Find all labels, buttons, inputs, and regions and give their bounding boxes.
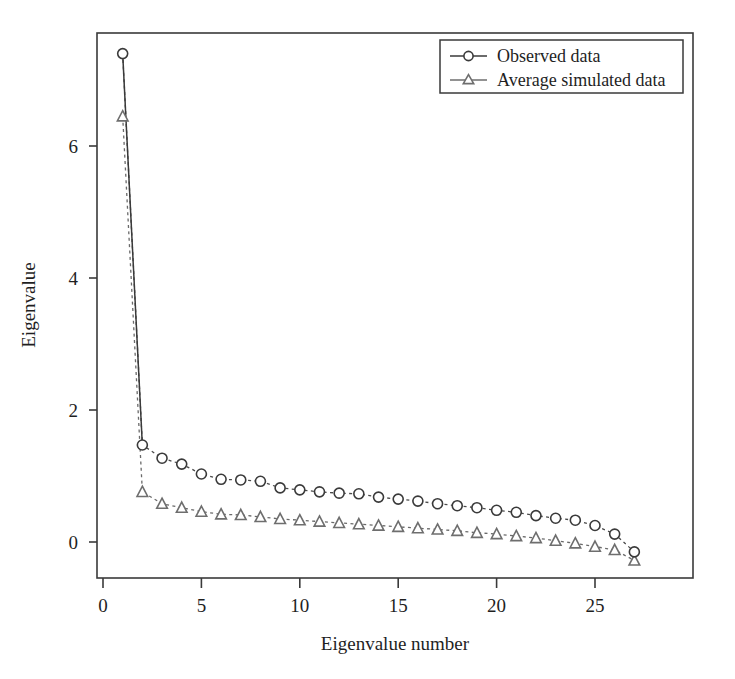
triangle-icon: [354, 519, 365, 529]
circle-icon: [334, 488, 344, 498]
circle-icon: [137, 440, 147, 450]
x-tick-label: 20: [487, 595, 506, 616]
circle-icon: [354, 489, 364, 499]
triangle-icon: [157, 498, 168, 508]
chart-canvas: 0246 0510152025 Eigenvalue number Eigenv…: [0, 0, 735, 679]
circle-icon: [314, 487, 324, 497]
circle-icon: [393, 494, 403, 504]
triangle-icon: [393, 521, 404, 531]
circle-icon: [295, 485, 305, 495]
circle-icon: [255, 476, 265, 486]
triangle-icon: [334, 517, 345, 527]
circle-icon: [196, 469, 206, 479]
triangle-icon: [176, 502, 187, 512]
legend-label-simulated: Average simulated data: [497, 70, 666, 90]
circle-icon: [236, 475, 246, 485]
triangle-icon: [137, 486, 148, 496]
triangle-icon: [294, 515, 305, 525]
chart-legend: Observed data Average simulated data: [440, 40, 683, 93]
circle-icon: [275, 483, 285, 493]
y-tick-label: 6: [69, 136, 79, 157]
series-lead-segment-observed: [123, 54, 143, 445]
triangle-icon: [531, 532, 542, 542]
triangle-icon: [609, 544, 620, 554]
circle-icon: [590, 521, 600, 531]
circle-icon: [472, 503, 482, 513]
y-axis-ticks: 0246: [69, 136, 98, 553]
x-tick-label: 10: [290, 595, 309, 616]
circle-icon: [374, 492, 384, 502]
circle-icon: [177, 459, 187, 469]
circle-icon: [629, 547, 639, 557]
series-markers-observed-data: [118, 49, 640, 557]
x-tick-label: 5: [197, 595, 207, 616]
circle-icon: [452, 501, 462, 511]
circle-icon: [118, 49, 128, 59]
circle-icon: [492, 505, 502, 515]
circle-icon: [216, 474, 226, 484]
y-tick-label: 0: [69, 532, 79, 553]
legend-label-observed: Observed data: [497, 46, 600, 66]
y-tick-label: 4: [69, 268, 79, 289]
triangle-icon: [314, 516, 325, 526]
x-tick-label: 0: [98, 595, 108, 616]
x-axis-title: Eigenvalue number: [321, 633, 470, 654]
triangle-icon: [570, 538, 581, 548]
y-tick-label: 2: [69, 400, 79, 421]
y-axis-title: Eigenvalue: [18, 262, 39, 347]
circle-icon: [610, 529, 620, 539]
triangle-icon: [590, 541, 601, 551]
circle-icon: [157, 453, 167, 463]
circle-icon: [433, 499, 443, 509]
circle-icon: [531, 511, 541, 521]
triangle-icon: [550, 535, 561, 545]
x-axis-ticks: 0510152025: [98, 578, 604, 616]
x-tick-label: 25: [586, 595, 605, 616]
x-tick-label: 15: [389, 595, 408, 616]
circle-icon: [551, 513, 561, 523]
circle-icon: [464, 51, 473, 60]
triangle-icon: [413, 523, 424, 533]
circle-icon: [511, 507, 521, 517]
circle-icon: [570, 515, 580, 525]
triangle-icon: [373, 520, 384, 530]
circle-icon: [413, 496, 423, 506]
scree-plot-figure: 0246 0510152025 Eigenvalue number Eigenv…: [0, 0, 735, 679]
